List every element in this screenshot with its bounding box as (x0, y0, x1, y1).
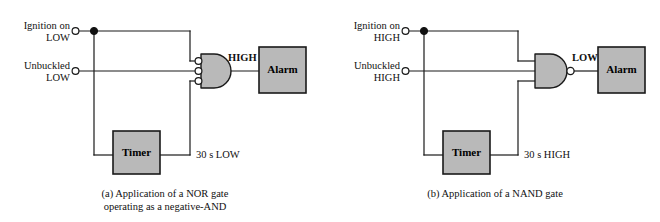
label-input-unbuckled-a: Unbuckled LOW (0, 60, 70, 84)
junction-dot-b (420, 27, 427, 34)
caption-a-line1: (a) Application of a NOR gate (0, 188, 330, 201)
label-input-ignition-line2-b: HIGH (330, 32, 400, 44)
label-input-unbuckled-line2-a: LOW (0, 72, 70, 84)
caption-a-line2: operating as a negative-AND (0, 201, 330, 214)
gate-output-bubble-b (567, 67, 574, 74)
caption-b-line1: (b) Application of a NAND gate (330, 188, 660, 201)
caption-a: (a) Application of a NOR gate operating … (0, 188, 330, 213)
junction-dot-a (90, 27, 97, 34)
panel-a-nor-gate: Ignition on LOW Unbuckled LOW Timer 30 s… (0, 0, 330, 222)
label-input-unbuckled-line1-b: Unbuckled (330, 60, 400, 72)
timer-box-label-a: Timer (113, 146, 160, 158)
label-input-ignition-line2-a: LOW (0, 32, 70, 44)
label-input-ignition-line1-b: Ignition on (330, 20, 400, 32)
gate-body-nand-b (535, 54, 567, 88)
label-input-ignition-b: Ignition on HIGH (330, 20, 400, 44)
gate-input-bubble-1-a (195, 58, 202, 65)
gate-body-negative-and-a (201, 54, 231, 88)
label-input-unbuckled-b: Unbuckled HIGH (330, 60, 400, 84)
caption-b: (b) Application of a NAND gate (330, 188, 660, 201)
label-input-ignition-a: Ignition on LOW (0, 20, 70, 44)
figure-logic-gate-applications: Ignition on LOW Unbuckled LOW Timer 30 s… (0, 0, 660, 222)
gate-input-bubble-2-a (195, 68, 202, 75)
label-input-unbuckled-line2-b: HIGH (330, 72, 400, 84)
alarm-box-label-b: Alarm (598, 63, 645, 75)
timer-box-label-b: Timer (443, 146, 490, 158)
gate-output-label-a: HIGH (228, 52, 257, 63)
gate-output-label-b: LOW (572, 52, 598, 63)
gate-input-bubble-3-a (195, 78, 202, 85)
terminal-ignition-b (402, 28, 409, 35)
label-input-unbuckled-line1-a: Unbuckled (0, 60, 70, 72)
terminal-unbuckled-a (72, 68, 79, 75)
panel-b-nand-gate: Ignition on HIGH Unbuckled HIGH Timer 30… (330, 0, 660, 222)
alarm-box-label-a: Alarm (259, 63, 306, 75)
label-input-ignition-line1-a: Ignition on (0, 20, 70, 32)
timer-output-label-b: 30 s HIGH (524, 149, 570, 160)
timer-output-label-a: 30 s LOW (196, 149, 240, 160)
terminal-unbuckled-b (402, 68, 409, 75)
terminal-ignition-a (72, 28, 79, 35)
